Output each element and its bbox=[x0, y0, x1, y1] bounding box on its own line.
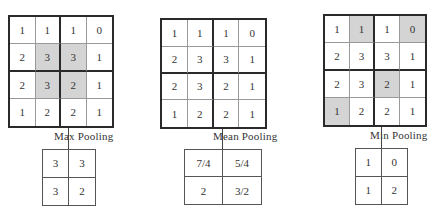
max-input-cell: 2 bbox=[10, 44, 36, 71]
min-output-cell: 2 bbox=[382, 177, 408, 205]
mean-input-cell: 1 bbox=[239, 100, 265, 127]
mean-input-cell: 3 bbox=[188, 74, 214, 101]
min-input-cell: 2 bbox=[375, 71, 400, 98]
max-output-cell: 2 bbox=[69, 178, 95, 206]
min-input-cell: 2 bbox=[325, 43, 350, 70]
min-input-cell: 1 bbox=[375, 16, 400, 43]
mean-input-cell: 1 bbox=[239, 47, 265, 74]
min-output-cell: 1 bbox=[356, 149, 382, 177]
min-pooling-output-grid: 1012 bbox=[355, 148, 408, 205]
mean-input-cell: 2 bbox=[214, 100, 240, 127]
max-input-cell: 3 bbox=[36, 44, 62, 71]
max-input-cell: 1 bbox=[36, 17, 62, 44]
mean-input-cell: 2 bbox=[214, 74, 240, 101]
min-output-cell: 1 bbox=[356, 177, 382, 205]
max-pooling-label: Max Pooling bbox=[54, 130, 113, 142]
max-input-cell: 2 bbox=[10, 72, 36, 99]
max-output-cell: 3 bbox=[43, 178, 69, 206]
min-input-cell: 1 bbox=[400, 71, 425, 98]
max-input-cell: 2 bbox=[61, 99, 87, 126]
mean-pooling-input-grid: 1110233123211221 bbox=[160, 18, 267, 129]
min-input-cell: 1 bbox=[325, 16, 350, 43]
mean-input-cell: 2 bbox=[188, 100, 214, 127]
max-pooling-input-grid: 1110233123211221 bbox=[8, 15, 114, 128]
min-input-cell: 3 bbox=[350, 71, 375, 98]
max-output-cell: 3 bbox=[69, 150, 95, 178]
min-input-cell: 1 bbox=[350, 16, 375, 43]
mean-output-cell: 5/4 bbox=[223, 150, 261, 177]
mean-input-cell: 1 bbox=[214, 20, 240, 47]
max-input-cell: 3 bbox=[36, 72, 62, 99]
max-input-cell: 1 bbox=[10, 99, 36, 126]
min-input-cell: 1 bbox=[325, 98, 350, 125]
min-pooling-input-grid: 1110233123211221 bbox=[323, 14, 427, 127]
mean-input-cell: 3 bbox=[188, 47, 214, 74]
max-input-cell: 3 bbox=[61, 44, 87, 71]
mean-input-cell: 1 bbox=[239, 74, 265, 101]
mean-output-cell: 7/4 bbox=[185, 150, 223, 177]
min-input-cell: 0 bbox=[400, 16, 425, 43]
min-input-cell: 3 bbox=[350, 43, 375, 70]
min-input-cell: 1 bbox=[400, 98, 425, 125]
max-input-cell: 1 bbox=[87, 44, 113, 71]
max-input-cell: 1 bbox=[87, 99, 113, 126]
max-input-cell: 0 bbox=[87, 17, 113, 44]
mean-output-cell: 2 bbox=[185, 177, 223, 204]
mean-output-cell: 3/2 bbox=[223, 177, 261, 204]
max-pooling-output-grid: 3332 bbox=[42, 149, 96, 206]
min-pooling-label: Min Pooling bbox=[370, 129, 428, 141]
max-input-cell: 1 bbox=[61, 17, 87, 44]
mean-pooling-output-grid: 7/45/423/2 bbox=[184, 149, 262, 205]
mean-input-cell: 3 bbox=[214, 47, 240, 74]
mean-input-cell: 1 bbox=[162, 100, 188, 127]
mean-input-cell: 0 bbox=[239, 20, 265, 47]
min-input-cell: 2 bbox=[325, 71, 350, 98]
max-output-cell: 3 bbox=[43, 150, 69, 178]
max-input-cell: 1 bbox=[10, 17, 36, 44]
max-input-cell: 1 bbox=[87, 72, 113, 99]
max-input-cell: 2 bbox=[61, 72, 87, 99]
min-input-cell: 3 bbox=[375, 43, 400, 70]
mean-input-cell: 1 bbox=[162, 20, 188, 47]
min-input-cell: 1 bbox=[400, 43, 425, 70]
mean-input-cell: 1 bbox=[188, 20, 214, 47]
min-input-cell: 2 bbox=[375, 98, 400, 125]
min-input-cell: 2 bbox=[350, 98, 375, 125]
min-output-cell: 0 bbox=[382, 149, 408, 177]
mean-input-cell: 2 bbox=[162, 74, 188, 101]
mean-input-cell: 2 bbox=[162, 47, 188, 74]
max-input-cell: 2 bbox=[36, 99, 62, 126]
